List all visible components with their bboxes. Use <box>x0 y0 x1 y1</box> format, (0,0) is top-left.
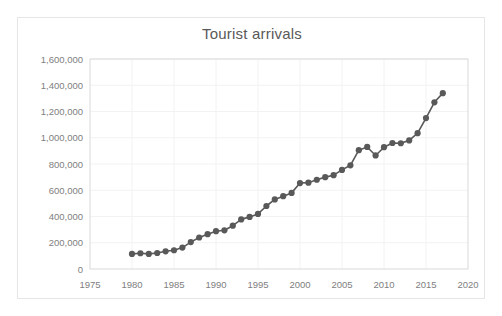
data-point-marker <box>129 251 135 257</box>
x-axis-tick-label: 2015 <box>415 279 436 290</box>
data-point-marker <box>398 140 404 146</box>
y-axis-tick-label: 800,000 <box>49 159 83 170</box>
data-point-marker <box>188 239 194 245</box>
data-point-marker <box>373 152 379 158</box>
data-point-marker <box>179 245 185 251</box>
data-point-marker <box>364 144 370 150</box>
data-point-marker <box>314 177 320 183</box>
data-point-marker <box>406 137 412 143</box>
y-axis-tick-label: 600,000 <box>49 185 83 196</box>
chart-plot: 0200,000400,000600,000800,0001,000,0001,… <box>18 18 486 300</box>
y-axis-tick-label: 400,000 <box>49 211 83 222</box>
data-point-marker <box>154 250 160 256</box>
data-point-marker <box>205 231 211 237</box>
series-markers-group <box>129 90 446 257</box>
data-point-marker <box>263 203 269 209</box>
data-point-marker <box>356 147 362 153</box>
y-axis-tick-label: 1,200,000 <box>41 106 83 117</box>
data-point-marker <box>297 180 303 186</box>
data-point-marker <box>272 196 278 202</box>
x-axis-tick-label: 2020 <box>457 279 478 290</box>
y-axis-tick-label: 1,600,000 <box>41 54 83 65</box>
data-point-marker <box>305 180 311 186</box>
data-point-marker <box>247 214 253 220</box>
x-axis-tick-label: 2000 <box>289 279 310 290</box>
data-point-marker <box>163 248 169 254</box>
x-axis-tick-label: 1985 <box>163 279 184 290</box>
data-point-marker <box>255 211 261 217</box>
data-point-marker <box>289 190 295 196</box>
data-point-marker <box>196 234 202 240</box>
data-point-marker <box>280 193 286 199</box>
data-point-marker <box>213 228 219 234</box>
x-axis-tick-label: 2005 <box>331 279 352 290</box>
x-axis-tick-label: 1990 <box>205 279 226 290</box>
data-point-marker <box>230 223 236 229</box>
data-point-marker <box>389 140 395 146</box>
x-axis-tick-labels: 1975198019851990199520002005201020152020 <box>79 279 478 290</box>
data-point-marker <box>221 227 227 233</box>
chart-container: Tourist arrivals 0200,000400,000600,0008… <box>17 17 485 299</box>
data-point-marker <box>171 247 177 253</box>
y-axis-tick-label: 1,000,000 <box>41 132 83 143</box>
data-point-marker <box>322 174 328 180</box>
data-point-marker <box>331 172 337 178</box>
data-point-marker <box>431 99 437 105</box>
data-point-marker <box>339 167 345 173</box>
y-axis-tick-label: 1,400,000 <box>41 80 83 91</box>
x-axis-tick-label: 2010 <box>373 279 394 290</box>
data-point-marker <box>423 115 429 121</box>
y-axis-tick-labels: 0200,000400,000600,000800,0001,000,0001,… <box>41 54 83 275</box>
gridlines-group <box>90 59 468 269</box>
x-axis-tick-label: 1980 <box>121 279 142 290</box>
data-point-marker <box>347 162 353 168</box>
series-line-tourist-arrivals <box>132 93 443 254</box>
y-axis-tick-label: 0 <box>78 264 83 275</box>
data-point-marker <box>146 251 152 257</box>
x-axis-tick-label: 1975 <box>79 279 100 290</box>
data-point-marker <box>381 144 387 150</box>
x-axis-tick-label: 1995 <box>247 279 268 290</box>
data-point-marker <box>415 130 421 136</box>
data-point-marker <box>238 216 244 222</box>
data-point-marker <box>137 250 143 256</box>
data-point-marker <box>440 90 446 96</box>
y-axis-tick-label: 200,000 <box>49 237 83 248</box>
